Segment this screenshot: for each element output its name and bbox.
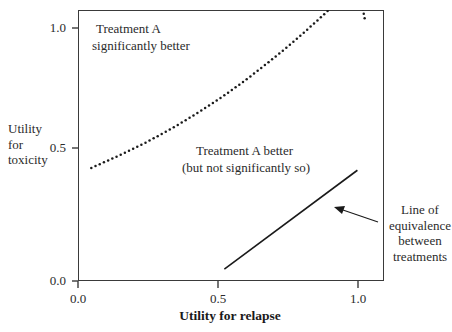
annotation-upper-line-1: Treatment A [96,20,190,37]
annotation-right-line-3: between [388,233,452,249]
x-axis-title: Utility for relapse [146,308,314,324]
annotation-right-line-1: Line of [388,202,452,218]
y-tick-label-1.0: 1.0 [22,21,66,34]
x-tick-label-0.5: 0.5 [196,292,240,305]
annotation-treatment-a-better: Treatment A better (but not significantl… [196,142,310,176]
y-tick-label-0.0: 0.0 [22,274,66,287]
annotation-upper-line-2: significantly better [92,37,190,54]
annotation-right-line-2: equivalence [388,218,452,234]
annotation-treatment-a-significantly-better: Treatment A significantly better [96,20,190,54]
annotation-middle-line-1: Treatment A better [196,142,310,159]
annotation-line-of-equivalence: Line of equivalence between treatments [388,202,452,264]
annotation-right-line-4: treatments [388,249,452,265]
y-axis-title: Utility for toxicity [8,121,66,168]
y-axis-title-line-2: for [8,137,66,153]
line-of-equivalence [224,170,357,269]
x-tick-label-1.0: 1.0 [336,292,380,305]
utility-tradeoff-figure: 1.0 0.5 0.0 0.0 0.5 1.0 Utility for toxi… [0,0,452,332]
y-axis-title-line-3: toxicity [8,152,66,168]
y-axis-title-line-1: Utility [8,121,66,137]
annotation-middle-line-2: (but not significantly so) [182,159,310,176]
x-tick-label-0.0: 0.0 [56,292,100,305]
